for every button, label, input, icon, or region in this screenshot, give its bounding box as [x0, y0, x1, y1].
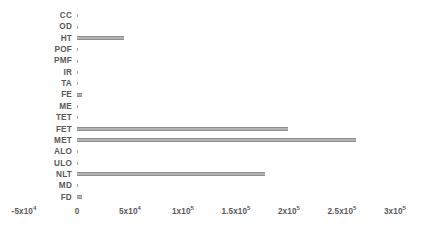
bar-ulo	[77, 162, 78, 165]
bar-ta	[77, 82, 78, 85]
bar-row: TA	[0, 78, 430, 89]
bar-row: IR	[0, 67, 430, 78]
category-label-ta: TA	[0, 78, 72, 89]
category-label-pmf: PMF	[0, 55, 72, 66]
bar-row: MET	[0, 135, 430, 146]
bar-md	[77, 184, 78, 187]
x-tick-label: 5x104	[119, 207, 141, 216]
bar-me	[77, 105, 78, 108]
bar-met	[77, 138, 356, 142]
bar-row: HT	[0, 33, 430, 44]
category-label-fet: FET	[0, 124, 72, 135]
category-label-tet: TET	[0, 112, 72, 123]
bar-ht	[77, 36, 124, 40]
bar-fet	[77, 127, 288, 131]
bar-row: ALO	[0, 146, 430, 157]
bar-row: FET	[0, 124, 430, 135]
category-label-ht: HT	[0, 33, 72, 44]
bar-row: PMF	[0, 55, 430, 66]
category-label-fe: FE	[0, 89, 72, 100]
bar-row: POF	[0, 44, 430, 55]
bar-row: TET	[0, 112, 430, 123]
bar-alo	[77, 150, 78, 153]
x-tick-label: 3x105	[384, 207, 406, 216]
bar-cc	[77, 14, 78, 17]
bar-fe	[77, 93, 82, 97]
bar-row: ULO	[0, 158, 430, 169]
x-tick-label: 2x105	[278, 207, 300, 216]
x-tick-label: 1.5x105	[221, 207, 250, 216]
category-label-met: MET	[0, 135, 72, 146]
x-tick-label: -5x104	[12, 207, 37, 216]
x-tick-label: 0	[75, 207, 80, 216]
bar-tet	[77, 116, 78, 119]
category-label-alo: ALO	[0, 146, 72, 157]
bar-od	[77, 26, 78, 29]
bar-row: CC	[0, 10, 430, 21]
category-label-od: OD	[0, 21, 72, 32]
category-label-cc: CC	[0, 10, 72, 21]
x-axis: -5x10405x1041x1051.5x1052x1052.5x1053x10…	[0, 200, 430, 233]
category-label-md: MD	[0, 180, 72, 191]
bar-pof	[77, 48, 78, 51]
category-label-pof: POF	[0, 44, 72, 55]
category-label-nlt: NLT	[0, 169, 72, 180]
bar-chart: CCODHTPOFPMFIRTAFEMETETFETMETALOULONLTMD…	[0, 0, 430, 233]
bar-nlt	[77, 172, 265, 176]
bar-row: FE	[0, 89, 430, 100]
category-label-ir: IR	[0, 67, 72, 78]
x-tick-label: 2.5x105	[327, 207, 356, 216]
category-label-me: ME	[0, 101, 72, 112]
bar-row: NLT	[0, 169, 430, 180]
bar-row: MD	[0, 180, 430, 191]
bar-pmf	[77, 60, 78, 63]
bar-ir	[77, 71, 78, 74]
plot-area: CCODHTPOFPMFIRTAFEMETETFETMETALOULONLTMD…	[0, 0, 430, 200]
bar-fd	[77, 195, 82, 199]
category-label-ulo: ULO	[0, 158, 72, 169]
x-tick-label: 1x105	[172, 207, 194, 216]
bar-row: OD	[0, 21, 430, 32]
bar-row: ME	[0, 101, 430, 112]
